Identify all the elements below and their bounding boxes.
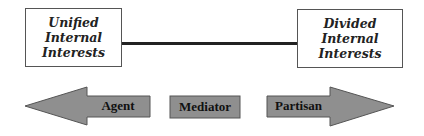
mediator-label: Mediator — [170, 97, 240, 117]
agent-label: Agent — [86, 96, 150, 116]
partisan-label: Partisan — [267, 96, 330, 116]
